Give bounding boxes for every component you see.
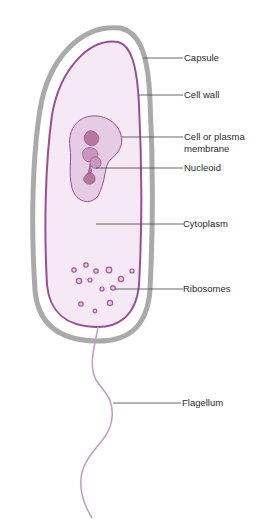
label-cytoplasm: Cytoplasm (183, 218, 228, 229)
label-capsule: Capsule (184, 52, 219, 63)
label-nucleoid: Nucleoid (184, 162, 221, 173)
label-cell-wall: Cell wall (184, 89, 219, 100)
label-cell-membrane-line1: Cell or plasma (184, 131, 245, 142)
label-cell-membrane-line2: membrane (184, 143, 229, 154)
flagellum (81, 327, 113, 518)
label-flagellum: Flagellum (182, 397, 223, 408)
label-ribosomes: Ribosomes (183, 283, 231, 294)
bacterial-cell-diagram (0, 0, 263, 530)
